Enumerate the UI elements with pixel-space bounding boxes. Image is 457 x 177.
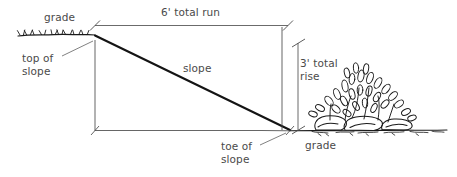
run-dimension-line — [90, 21, 293, 31]
label-grade-top: grade — [44, 11, 75, 24]
label-total-rise: 3' total rise — [300, 57, 338, 82]
boulder-group — [315, 116, 412, 131]
leader-top-of-slope — [62, 41, 93, 56]
leader-toe-of-slope — [260, 133, 286, 145]
slope-diagram: grade 6' total run top of slope slope 3'… — [0, 0, 457, 177]
slope-line — [95, 36, 290, 131]
rise-dimension-line — [292, 39, 305, 134]
lower-grade-line — [91, 126, 447, 135]
label-toe-of-slope: toe of slope — [221, 140, 252, 165]
upper-grade-line — [17, 30, 95, 36]
ground-texture — [312, 131, 444, 136]
label-total-run: 6' total run — [161, 6, 220, 19]
label-grade-bottom: grade — [305, 139, 336, 152]
label-slope: slope — [183, 62, 211, 75]
label-top-of-slope: top of slope — [22, 52, 53, 77]
